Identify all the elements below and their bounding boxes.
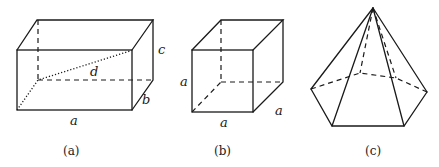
cube-top-face (192, 20, 283, 50)
cube-right-face (253, 20, 283, 112)
solids-diagram: c d b a (a) a a a (b) (c) (0, 0, 439, 167)
label-c: c (158, 42, 166, 57)
figure-c-pyramid: (c) (311, 8, 427, 158)
figure-b-cube: a a a (b) (180, 20, 283, 158)
pyramid-edge-front-right (373, 8, 404, 126)
label-d: d (90, 64, 98, 79)
pyramid-base-visible (311, 89, 427, 126)
pyramid-edge-front-left (332, 8, 373, 126)
caption-a: (a) (63, 144, 80, 158)
cube-hidden-depth (192, 82, 221, 112)
label-a: a (70, 113, 78, 128)
caption-b: (b) (214, 144, 231, 158)
figure-a-box: c d b a (a) (17, 20, 166, 158)
label-a-height: a (180, 74, 188, 89)
pyramid-edge-left (311, 8, 373, 89)
label-a-depth: a (275, 103, 283, 118)
pyramid-base-hidden (311, 73, 427, 92)
pyramid-hidden-edge-2 (373, 8, 396, 78)
caption-c: (c) (365, 144, 381, 158)
label-a-length: a (220, 115, 228, 130)
label-b: b (142, 92, 150, 107)
